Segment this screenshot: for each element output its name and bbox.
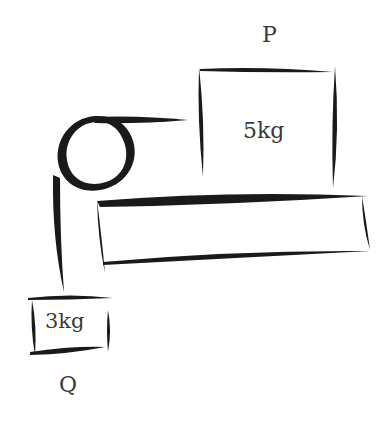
string-vertical	[53, 175, 64, 292]
block-p-label: P	[262, 22, 277, 47]
block-p-mass: 5kg	[243, 118, 284, 143]
table	[97, 194, 370, 273]
block-q-mass: 3kg	[45, 309, 85, 333]
block-q-label: Q	[59, 372, 77, 397]
pulley-diagram: P 5kg 3kg Q	[0, 0, 391, 425]
pulley-wheel	[58, 116, 135, 191]
diagram-canvas	[0, 0, 391, 425]
